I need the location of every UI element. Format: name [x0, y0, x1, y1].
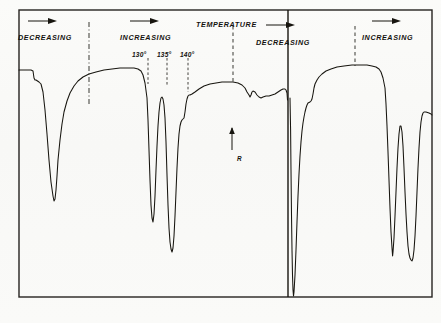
temperature-label-140: 140°: [180, 51, 194, 58]
recorder-chart: [0, 0, 441, 323]
temperature-label-135: 135°: [157, 51, 171, 58]
direction-label-increasing-right: INCREASING: [362, 33, 413, 42]
sensitivity-label-r: R: [237, 155, 242, 162]
temperature-label-130: 130°: [132, 51, 146, 58]
reference-lines: [89, 10, 355, 297]
direction-label-decreasing-right: DECREASING: [256, 38, 310, 47]
sensitivity-arrow: [229, 127, 235, 150]
temperature-tick-lines: [148, 58, 188, 92]
direction-label-decreasing-left: DECREASING: [18, 33, 72, 42]
chart-frame: [19, 10, 432, 297]
chart-title: TEMPERATURE: [196, 20, 257, 29]
figure-container: TEMPERATURE DECREASING INCREASING DECREA…: [0, 0, 441, 323]
direction-label-increasing-left: INCREASING: [120, 33, 171, 42]
trace-curves: [19, 65, 432, 296]
